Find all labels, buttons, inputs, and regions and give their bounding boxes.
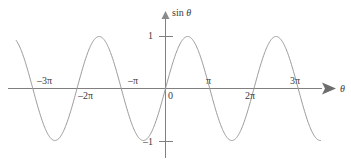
x-tick-label-3pi: 3π [290,76,300,86]
x-axis-arrowhead [322,83,336,95]
x-tick-label-neg-3pi: –3π [37,76,52,86]
x-axis-title-variable: θ [340,83,345,94]
y-tick-label-one: 1 [148,31,153,41]
x-tick-label-neg-2pi: –2π [78,91,93,101]
y-axis-title-text: sin [172,7,186,18]
x-tick-label-pi: π [206,76,211,86]
y-axis-title: sin θ [172,8,191,18]
x-tick-label-2pi: 2π [245,91,255,101]
x-axis-title: θ [340,84,345,94]
sine-function-figure: sin θ θ 1 –1 0 –3π –2π –π π 2π 3π [0,0,351,163]
y-axis-title-variable: θ [186,7,191,18]
origin-label: 0 [168,91,173,101]
x-tick-label-neg-pi: –π [128,76,138,86]
y-tick-label-negative-one: –1 [143,137,153,147]
y-axis-arrowhead [162,11,170,19]
